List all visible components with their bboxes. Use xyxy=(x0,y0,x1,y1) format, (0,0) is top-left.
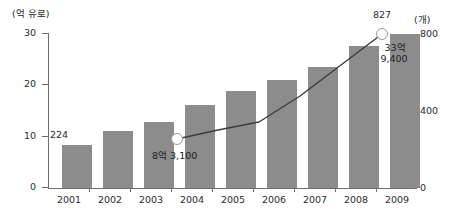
right-axis-tick-label-0: 0 xyxy=(420,182,446,193)
line-marker-2009 xyxy=(376,28,388,40)
x-axis-tick xyxy=(335,188,336,192)
x-axis-label-2007: 2007 xyxy=(293,194,337,205)
bar-value-label-2001: 224 xyxy=(40,129,78,140)
bar-2001 xyxy=(62,145,92,188)
x-axis-label-2005: 2005 xyxy=(211,194,255,205)
bar-2005 xyxy=(226,91,256,188)
line-value-label-2004: 8억 3,100 xyxy=(152,150,197,161)
x-axis-line xyxy=(48,188,412,189)
line-marker-2004 xyxy=(171,133,183,145)
bar-2006 xyxy=(267,80,297,188)
x-axis-label-2006: 2006 xyxy=(252,194,296,205)
x-axis-tick xyxy=(376,188,377,192)
x-axis-label-2002: 2002 xyxy=(88,194,132,205)
right-axis-tick-label-400: 400 xyxy=(420,105,446,116)
left-axis-tick-label-0: 0 xyxy=(14,181,36,192)
bar-value-label-2009-line2: 9,400 xyxy=(374,53,414,64)
bar-2008 xyxy=(349,46,379,188)
x-axis-label-2004: 2004 xyxy=(170,194,214,205)
x-axis-label-2001: 2001 xyxy=(47,194,91,205)
right-axis-unit-label: (개) xyxy=(414,12,430,26)
x-axis-label-2009: 2009 xyxy=(375,194,419,205)
left-axis-tick-label-20: 20 xyxy=(14,78,36,89)
left-axis-tick-label-10: 10 xyxy=(14,130,36,141)
right-axis-tick-label-800: 800 xyxy=(420,28,446,39)
bar-value-label-2009-line1: 33억 xyxy=(378,42,412,53)
x-axis-tick xyxy=(253,188,254,192)
line-value-label-2009: 827 xyxy=(363,9,401,20)
x-axis-label-2003: 2003 xyxy=(129,194,173,205)
bar-2007 xyxy=(308,67,338,188)
x-axis-tick xyxy=(212,188,213,192)
left-axis-unit-label: (억 유로) xyxy=(12,6,49,20)
chart-container: (억 유로) (개) 30 20 10 0 800 400 0 2001 200… xyxy=(0,0,455,212)
bar-2002 xyxy=(103,131,133,188)
x-axis-tick xyxy=(171,188,172,192)
x-axis-tick xyxy=(294,188,295,192)
x-axis-label-2008: 2008 xyxy=(334,194,378,205)
x-axis-tick xyxy=(130,188,131,192)
bar-2004 xyxy=(185,105,215,188)
plot-area xyxy=(48,33,412,188)
x-axis-tick xyxy=(89,188,90,192)
left-axis-tick-label-30: 30 xyxy=(14,27,36,38)
